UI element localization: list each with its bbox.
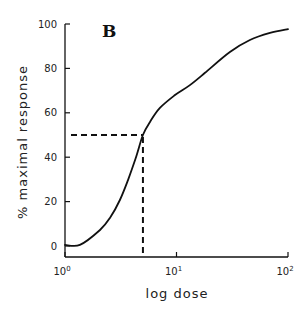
y-tick-label: 0: [51, 241, 57, 252]
x-tick-label: 101: [165, 265, 182, 277]
y-tick-label: 20: [44, 196, 57, 207]
axes: [65, 24, 288, 257]
annotations: [71, 135, 143, 257]
dose-response-chart: 020406080100 100101102 B log dose % maxi…: [0, 0, 307, 310]
x-tick-label: 102: [276, 265, 293, 277]
panel-label: B: [102, 21, 116, 41]
dose-response-curve: [65, 29, 288, 246]
x-tick-label: 100: [53, 265, 70, 277]
y-tick-label: 40: [44, 152, 57, 163]
y-axis-label: % maximal response: [15, 65, 30, 219]
y-tick-label: 60: [44, 107, 57, 118]
x-ticks: 100101102: [53, 252, 293, 277]
x-axis-label: log dose: [146, 286, 209, 301]
y-tick-label: 80: [44, 63, 57, 74]
y-tick-label: 100: [38, 19, 57, 30]
